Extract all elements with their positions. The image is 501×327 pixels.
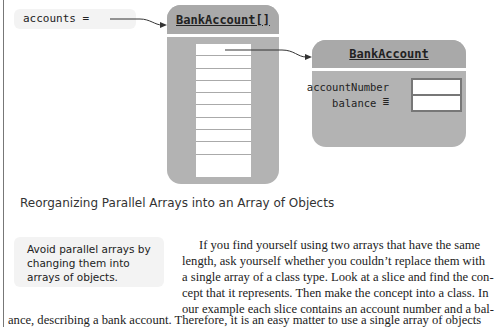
paragraph-line: If you find yourself using two arrays th… [199, 238, 480, 253]
paragraph-line: length, ask yourself whether you couldn’… [182, 254, 485, 269]
paragraph-line: cept that it represents. Then make the c… [182, 286, 488, 301]
paragraph-line: a single array of a class type. Look at … [182, 270, 494, 285]
paragraph-line: ance, describing a bank account. Therefo… [8, 313, 481, 327]
margin-tip: Avoid parallel arrays by changing them i… [14, 237, 164, 287]
tip-text: Avoid parallel arrays by changing them i… [27, 242, 158, 284]
figure-caption: Reorganizing Parallel Arrays into an Arr… [20, 196, 334, 210]
